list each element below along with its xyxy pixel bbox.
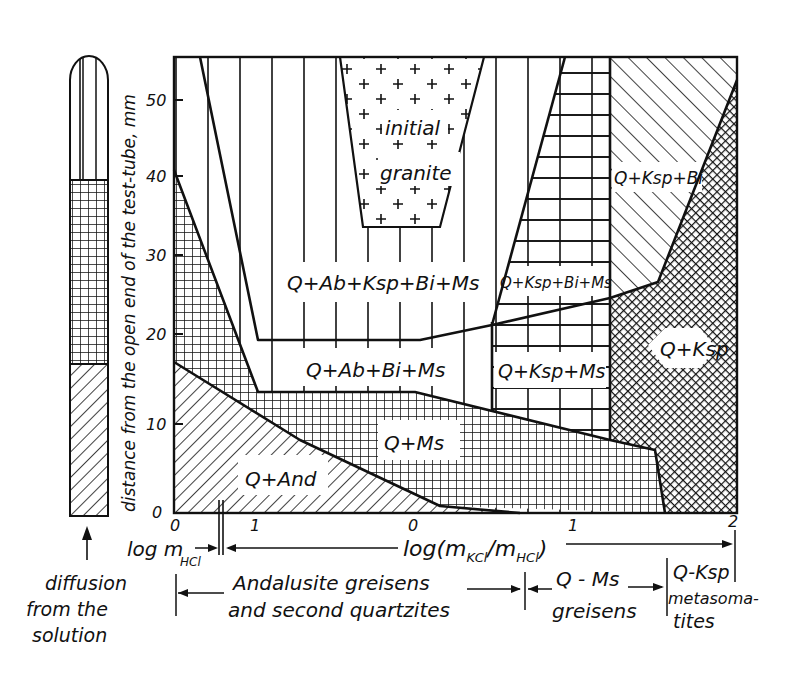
- test-tube: [70, 56, 108, 516]
- svg-text:0: 0: [408, 516, 418, 535]
- tube-caption-3: solution: [32, 624, 107, 646]
- tube-caption-1: diffusion: [45, 572, 127, 594]
- label-q-ksp-bi: Q+Ksp+Bi: [614, 168, 703, 188]
- svg-text:2: 2: [728, 512, 738, 531]
- svg-text:Q - Ms: Q - Ms: [556, 567, 619, 591]
- svg-text:Andalusite greisens: Andalusite greisens: [231, 571, 430, 595]
- label-q-ksp-bi-ms: Q+Ksp+Bi+Ms: [500, 274, 612, 292]
- label-q-ab-ksp-bi-ms: Q+Ab+Ksp+Bi+Ms: [287, 271, 479, 295]
- svg-text:1: 1: [250, 516, 260, 535]
- svg-text:40: 40: [146, 167, 166, 186]
- svg-text:greisens: greisens: [552, 599, 637, 623]
- arrow-zone-boundary-icon: [467, 572, 552, 610]
- arrow-left-zone-icon: [178, 589, 224, 597]
- label-q-and: Q+And: [245, 467, 317, 491]
- svg-text:10: 10: [146, 415, 166, 434]
- svg-text:20: 20: [146, 325, 166, 344]
- svg-text:1: 1: [568, 516, 578, 535]
- y-axis-ticks: 0 10 20 30 40 50: [146, 91, 166, 522]
- svg-text:50: 50: [146, 91, 166, 110]
- phase-zoning-diagram: diffusion from the solution distance fro…: [0, 0, 792, 674]
- y-axis-label: distance from the open end of the test-t…: [119, 94, 139, 512]
- zone-annotations: Andalusite greisens and second quartzite…: [176, 558, 759, 632]
- arrow-right-to-2-icon: [566, 540, 733, 548]
- label-initial: initial: [385, 116, 440, 140]
- x-label-log-mhcl: log m: [127, 537, 183, 561]
- svg-text:HCl: HCl: [180, 555, 201, 569]
- arrow-right-to-break-icon: [195, 544, 218, 552]
- diffusion-arrow-icon: [82, 526, 92, 560]
- svg-text:0: 0: [152, 503, 162, 522]
- label-q-ms: Q+Ms: [384, 431, 444, 455]
- tube-caption-2: from the: [26, 598, 108, 620]
- svg-text:0: 0: [170, 516, 180, 535]
- svg-text:metasoma-: metasoma-: [668, 589, 759, 608]
- label-q-ksp: Q+Ksp: [660, 337, 729, 361]
- x-label-log-ratio: log(mKCl/mHCl): [403, 536, 547, 565]
- label-granite: granite: [380, 161, 452, 185]
- label-q-ksp-ms: Q+Ksp+Ms: [498, 360, 606, 382]
- arrow-left-from-axis-label-icon: [226, 544, 398, 552]
- label-q-ab-bi-ms: Q+Ab+Bi+Ms: [306, 358, 445, 382]
- svg-text:Q-Ksp: Q-Ksp: [673, 561, 730, 583]
- arrow-to-ksp-zone-icon: [628, 583, 664, 591]
- svg-text:and second quartzites: and second quartzites: [228, 598, 450, 622]
- svg-text:tites: tites: [673, 610, 715, 632]
- svg-text:30: 30: [146, 246, 166, 265]
